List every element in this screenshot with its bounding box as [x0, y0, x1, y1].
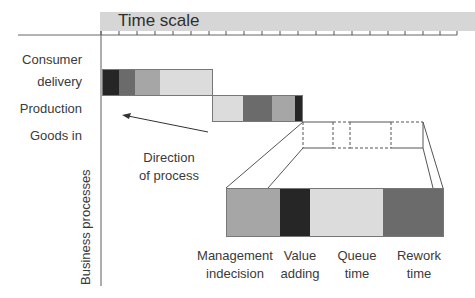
zoom-connectors: [226, 122, 443, 188]
segment-rework: [383, 189, 443, 236]
direction-label-line1: Direction: [134, 149, 204, 167]
legend-label-line2: time: [384, 265, 454, 283]
expanded-breakdown-bar: [226, 188, 444, 237]
segment-management-indecision: [227, 189, 280, 236]
segment-value-adding: [103, 70, 119, 95]
row-label-goods-in: Goods in: [0, 128, 82, 143]
direction-arrow: [128, 116, 208, 132]
segment-queue: [213, 96, 243, 121]
segment-management-indecision: [272, 96, 295, 121]
segment-value-adding: [295, 96, 302, 121]
time-ticks: [101, 31, 457, 35]
segment-value-adding: [280, 189, 310, 236]
legend-rework-time: Rework time: [384, 247, 454, 283]
direction-label-line2: of process: [134, 167, 204, 185]
production-bar: [212, 95, 303, 122]
consumer-delivery-bar: [102, 69, 213, 96]
row-label-consumer: Consumer: [0, 52, 82, 67]
segment-queue: [310, 189, 383, 236]
arrowhead-icon: [122, 113, 131, 119]
legend-label-line1: Rework: [384, 247, 454, 265]
legend-queue-time: Queue time: [327, 247, 387, 283]
legend-label-line2: time: [327, 265, 387, 283]
segment-queue: [160, 70, 212, 95]
goods-in-box: [303, 122, 423, 148]
legend-label-line1: Value: [270, 247, 330, 265]
axis-label-business-processes: Business processes: [78, 169, 93, 285]
legend-label-line1: Queue: [327, 247, 387, 265]
direction-label: Direction of process: [134, 149, 204, 185]
segment-rework: [243, 96, 272, 121]
segment-management-indecision: [135, 70, 160, 95]
row-label-production: Production: [0, 101, 82, 116]
legend-value-adding: Value adding: [270, 247, 330, 283]
segment-rework: [119, 70, 135, 95]
legend-label-line2: adding: [270, 265, 330, 283]
row-label-delivery: delivery: [0, 74, 82, 89]
